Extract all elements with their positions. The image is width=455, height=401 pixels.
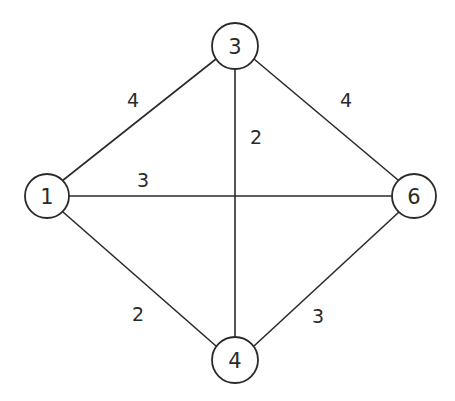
- edge-3-6: [254, 59, 398, 180]
- edge-weight-1-6: 3: [137, 169, 149, 191]
- edge-weight-1-4: 2: [132, 303, 144, 325]
- edge-1-3: [62, 59, 216, 181]
- edge-weight-3-6: 4: [340, 89, 352, 111]
- edge-weight-1-3: 4: [127, 89, 139, 111]
- graph-diagram: 4 4 2 3 2 3 1 3 6 4: [0, 0, 455, 401]
- edge-weight-4-6: 3: [312, 305, 324, 327]
- node-3-label: 3: [228, 35, 241, 59]
- edge-4-6: [254, 212, 399, 346]
- edge-weight-3-4: 2: [250, 126, 262, 148]
- node-6-label: 6: [407, 185, 420, 209]
- node-4: 4: [212, 337, 258, 383]
- nodes: 1 3 6 4: [25, 23, 436, 383]
- edge-labels: 4 4 2 3 2 3: [127, 89, 352, 327]
- node-4-label: 4: [228, 349, 241, 373]
- node-6: 6: [392, 174, 436, 218]
- node-1: 1: [25, 174, 69, 218]
- node-1-label: 1: [40, 185, 53, 209]
- node-3: 3: [212, 23, 258, 69]
- edge-1-4: [63, 212, 216, 346]
